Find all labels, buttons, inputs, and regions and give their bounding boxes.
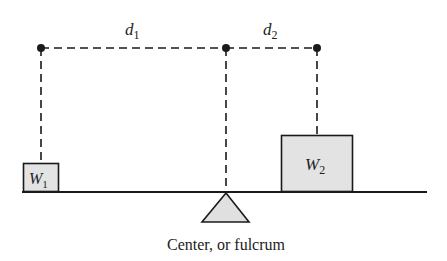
point-left: [37, 44, 45, 52]
point-center: [222, 44, 230, 52]
point-right: [313, 44, 321, 52]
label-d2: d2: [263, 20, 278, 42]
label-d1: d1: [125, 20, 140, 42]
fulcrum-triangle: [202, 193, 249, 222]
fulcrum-caption: Center, or fulcrum: [167, 236, 286, 253]
lever-diagram: d1 d2 W1 W2 Center, or fulcrum: [0, 0, 447, 261]
